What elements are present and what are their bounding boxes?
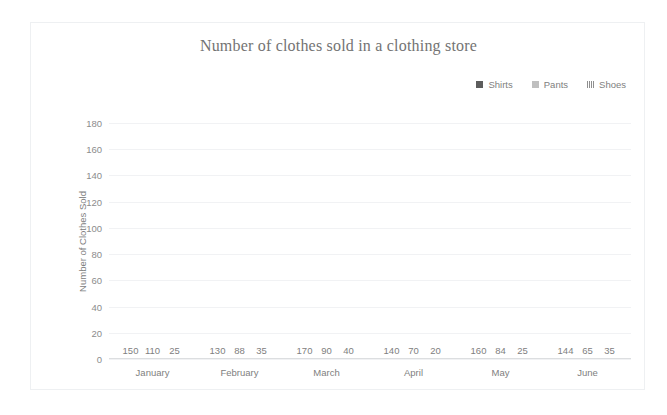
bar-value-label: 84 [495,345,506,356]
legend-item-label: Shirts [488,79,512,90]
legend-item-shirts[interactable]: Shirts [476,79,512,90]
bar-group-may: 1608425 [457,123,544,359]
bar-value-label: 65 [582,345,593,356]
bar-value-label: 25 [517,345,528,356]
y-axis-tick-label: 0 [97,354,102,365]
bar-value-label: 130 [210,345,226,356]
gridline [109,359,631,360]
bar-value-label: 35 [604,345,615,356]
x-axis-tick-label: June [577,367,598,378]
legend-item-pants[interactable]: Pants [532,79,568,90]
y-axis-tick-label: 40 [91,301,102,312]
x-axis-tick-label: March [313,367,339,378]
y-axis-tick-label: 180 [86,118,102,129]
bar-value-label: 140 [384,345,400,356]
bar-value-label: 160 [471,345,487,356]
chart-legend: ShirtsPantsShoes [476,79,626,90]
x-axis-tick-label: January [136,367,170,378]
bar-group-january: 15011025 [109,123,196,359]
x-axis-labels: JanuaryFebruaryMarchAprilMayJune [109,367,631,383]
bar-value-label: 110 [145,345,160,356]
bar-value-label: 170 [297,345,313,356]
bar-value-label: 90 [321,345,332,356]
y-axis-tick-label: 120 [86,196,102,207]
square-dark-icon [476,81,483,88]
bar-value-label: 70 [408,345,419,356]
bar-value-label: 150 [123,345,139,356]
chart-container: Number of clothes sold in a clothing sto… [30,22,645,390]
x-axis-tick-label: May [492,367,510,378]
bar-value-label: 144 [558,345,574,356]
bar-group-june: 1446535 [544,123,631,359]
x-axis-tick-label: February [220,367,258,378]
x-axis-line [109,358,631,359]
y-axis-tick-label: 140 [86,170,102,181]
bar-value-label: 35 [256,345,267,356]
y-axis-tick-label: 100 [86,222,102,233]
y-axis-tick-label: 20 [91,327,102,338]
legend-item-shoes[interactable]: Shoes [587,79,626,90]
y-axis-title: Number of Clothes Sold [75,123,89,359]
bar-value-label: 25 [169,345,180,356]
y-axis-tick-label: 60 [91,275,102,286]
chart-title: Number of clothes sold in a clothing sto… [31,37,646,55]
y-axis-tick-label: 160 [86,144,102,155]
square-hatch-icon [587,81,594,88]
bar-group-february: 1308835 [196,123,283,359]
bar-value-label: 20 [430,345,441,356]
bar-value-label: 40 [343,345,354,356]
square-light-icon [532,81,539,88]
plot-area: 020406080100120140160180 150110251308835… [109,123,631,359]
bar-value-label: 88 [234,345,245,356]
x-axis-tick-label: April [404,367,423,378]
bar-group-april: 1407020 [370,123,457,359]
legend-item-label: Pants [544,79,568,90]
legend-item-label: Shoes [599,79,626,90]
bar-group-march: 1709040 [283,123,370,359]
y-axis-tick-label: 80 [91,249,102,260]
